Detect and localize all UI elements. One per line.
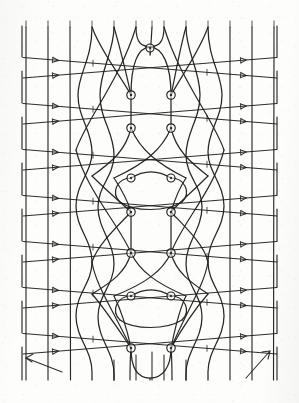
crossing-node-circle (146, 44, 154, 52)
weaving-curve-strand (98, 27, 114, 380)
tick-marker-group (26, 21, 274, 27)
core-vertical-stub-group (114, 352, 186, 380)
weaving-curve-strand (76, 27, 92, 380)
crossing-node-circle (127, 91, 135, 99)
crossing-node-circle (167, 344, 175, 352)
braid-diagram-figure (0, 0, 299, 403)
corner-orientation-arrow-group (26, 351, 270, 378)
crossing-node-circle (167, 91, 175, 99)
weaving-curve-strand (208, 27, 224, 380)
weaving-curve-strand (131, 348, 171, 378)
vertical-strand (274, 27, 275, 380)
crossing-node-circle (127, 344, 135, 352)
vertical-strand (70, 27, 71, 380)
ascending-diagonal-group (23, 58, 277, 355)
crossing-node-circle (167, 249, 175, 257)
corner-orientation-arrow (26, 354, 62, 372)
weaving-curve-strand (186, 27, 202, 380)
crossing-node-circle (127, 249, 135, 257)
crossing-node-circle (167, 124, 175, 132)
crossing-node-circle (167, 174, 175, 182)
weaving-curve-strand (131, 47, 171, 95)
crossing-node-circle (127, 208, 135, 216)
corner-orientation-arrow (246, 351, 270, 378)
tick-marker-group-core (92, 21, 208, 27)
crossing-node-group (127, 44, 175, 352)
crossing-node-circle (167, 208, 175, 216)
diagram-canvas (0, 0, 299, 403)
crossing-node-circle (127, 124, 135, 132)
crossing-node-circle (167, 292, 175, 300)
crossing-node-circle (127, 292, 135, 300)
crossing-node-circle (127, 174, 135, 182)
